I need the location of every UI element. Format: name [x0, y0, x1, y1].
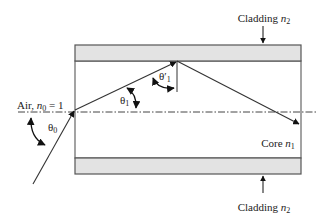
- core-label: Core n1: [261, 137, 295, 151]
- cladding-bottom-label: Cladding n2: [238, 201, 291, 215]
- incident-ray: [33, 111, 74, 184]
- cladding-top-label: Cladding n2: [238, 12, 291, 26]
- theta0-label: θ0: [48, 121, 57, 135]
- cladding-top: [75, 45, 301, 61]
- air-label: Air, n0 = 1: [17, 99, 63, 113]
- fiber-diagram: Cladding n2 Cladding n2 Core n1 Air, n0 …: [0, 0, 330, 220]
- theta0-arc-icon: [31, 118, 45, 145]
- cladding-bottom: [75, 158, 301, 174]
